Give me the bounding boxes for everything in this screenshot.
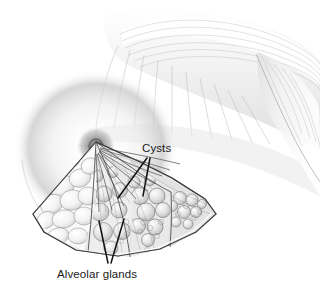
label-cysts: Cysts xyxy=(142,142,171,154)
breast-anatomy-figure: Cysts Alveolar glands xyxy=(0,0,320,287)
label-alveolar-glands: Alveolar glands xyxy=(57,268,137,280)
